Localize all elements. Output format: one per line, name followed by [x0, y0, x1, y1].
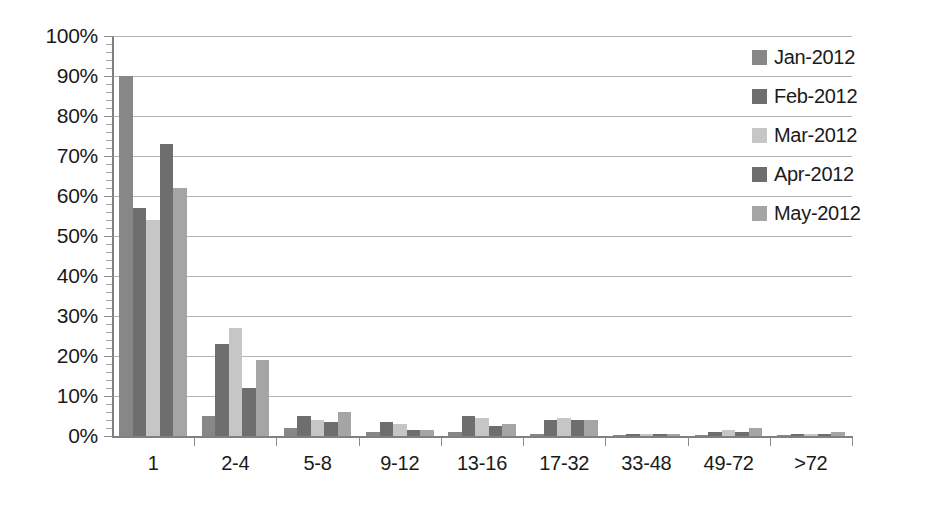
x-axis: 12-45-89-1213-1617-3233-4849-72>72	[112, 452, 852, 492]
y-axis-major-tick	[104, 116, 114, 117]
bar	[502, 424, 516, 436]
bar	[297, 416, 311, 436]
legend-swatch-icon	[752, 167, 767, 182]
y-axis-minor-tick	[106, 308, 112, 309]
bar-chart: 0%10%20%30%40%50%60%70%80%90%100% 12-45-…	[0, 0, 941, 508]
bar	[571, 420, 585, 436]
x-axis-tick	[852, 437, 853, 446]
y-axis-tick-label: 80%	[57, 104, 98, 128]
y-axis-major-tick	[104, 316, 114, 317]
legend-item-label: Feb-2012	[774, 85, 857, 108]
bar	[256, 360, 270, 436]
y-axis-tick-label: 0%	[68, 424, 98, 448]
legend-item-label: Jan-2012	[774, 46, 855, 69]
legend-item[interactable]: Jan-2012	[752, 38, 932, 77]
bar	[475, 418, 489, 436]
bar-group	[523, 36, 605, 436]
y-axis-minor-tick	[106, 52, 112, 53]
y-axis-minor-tick	[106, 252, 112, 253]
y-axis-tick-label: 90%	[57, 64, 98, 88]
y-axis-minor-tick	[106, 148, 112, 149]
x-axis-line	[112, 436, 853, 438]
x-axis-tick	[523, 437, 524, 446]
x-axis-tick	[359, 437, 360, 446]
y-axis-minor-tick	[106, 300, 112, 301]
bar	[160, 144, 174, 436]
legend-item-label: May-2012	[774, 202, 861, 225]
x-axis-tick	[688, 437, 689, 446]
bar-group	[605, 36, 687, 436]
y-axis-minor-tick	[106, 324, 112, 325]
bar	[393, 424, 407, 436]
y-axis-major-tick	[104, 196, 114, 197]
bar	[462, 416, 476, 436]
legend-item[interactable]: May-2012	[752, 194, 932, 233]
bar-group	[194, 36, 276, 436]
y-axis-minor-tick	[106, 212, 112, 213]
y-axis-tick-label: 30%	[57, 304, 98, 328]
y-axis-major-tick	[104, 236, 114, 237]
y-axis-minor-tick	[106, 372, 112, 373]
y-axis-minor-tick	[106, 164, 112, 165]
bar	[215, 344, 229, 436]
y-axis-minor-tick	[106, 100, 112, 101]
y-axis-major-tick	[104, 36, 114, 37]
x-axis-tick-label: 5-8	[303, 452, 331, 475]
bar	[544, 420, 558, 436]
y-axis-minor-tick	[106, 44, 112, 45]
x-axis-tick-label: 9-12	[380, 452, 419, 475]
y-axis-major-tick	[104, 76, 114, 77]
y-axis-minor-tick	[106, 260, 112, 261]
y-axis-minor-tick	[106, 348, 112, 349]
y-axis-minor-tick	[106, 84, 112, 85]
x-axis-tick-label: >72	[794, 452, 827, 475]
y-axis-minor-tick	[106, 180, 112, 181]
bar	[557, 418, 571, 436]
legend-item[interactable]: Feb-2012	[752, 77, 932, 116]
y-axis-tick-label: 40%	[57, 264, 98, 288]
y-axis-major-tick	[104, 156, 114, 157]
x-axis-tick-label: 33-48	[621, 452, 671, 475]
legend-item[interactable]: Mar-2012	[752, 116, 932, 155]
y-axis-tick-label: 100%	[45, 24, 98, 48]
bar-group	[276, 36, 358, 436]
bar	[202, 416, 216, 436]
bar-group	[359, 36, 441, 436]
y-axis-minor-tick	[106, 332, 112, 333]
x-axis-tick-label: 1	[148, 452, 159, 475]
legend-swatch-icon	[752, 89, 767, 104]
bar	[146, 220, 160, 436]
bar	[338, 412, 352, 436]
y-axis-minor-tick	[106, 412, 112, 413]
y-axis-minor-tick	[106, 132, 112, 133]
y-axis-minor-tick	[106, 388, 112, 389]
y-axis-minor-tick	[106, 428, 112, 429]
bar-group	[112, 36, 194, 436]
y-axis-major-tick	[104, 356, 114, 357]
chart-legend: Jan-2012Feb-2012Mar-2012Apr-2012May-2012	[752, 38, 932, 233]
y-axis-minor-tick	[106, 60, 112, 61]
bar	[173, 188, 187, 436]
y-axis-minor-tick	[106, 228, 112, 229]
y-axis-minor-tick	[106, 380, 112, 381]
y-axis-minor-tick	[106, 404, 112, 405]
y-axis-minor-tick	[106, 140, 112, 141]
x-axis-tick	[605, 437, 606, 446]
y-axis-minor-tick	[106, 108, 112, 109]
y-axis-tick-label: 70%	[57, 144, 98, 168]
y-axis-minor-tick	[106, 68, 112, 69]
bar	[119, 76, 133, 436]
y-axis-tick-label: 20%	[57, 344, 98, 368]
legend-item[interactable]: Apr-2012	[752, 155, 932, 194]
plot-area	[112, 36, 852, 436]
x-axis-tick	[194, 437, 195, 446]
legend-swatch-icon	[752, 50, 767, 65]
y-axis-minor-tick	[106, 92, 112, 93]
bar	[284, 428, 298, 436]
y-axis-tick-label: 10%	[57, 384, 98, 408]
y-axis-minor-tick	[106, 220, 112, 221]
y-axis-minor-tick	[106, 188, 112, 189]
y-axis-minor-tick	[106, 364, 112, 365]
y-axis-minor-tick	[106, 340, 112, 341]
x-axis-tick-label: 2-4	[221, 452, 249, 475]
